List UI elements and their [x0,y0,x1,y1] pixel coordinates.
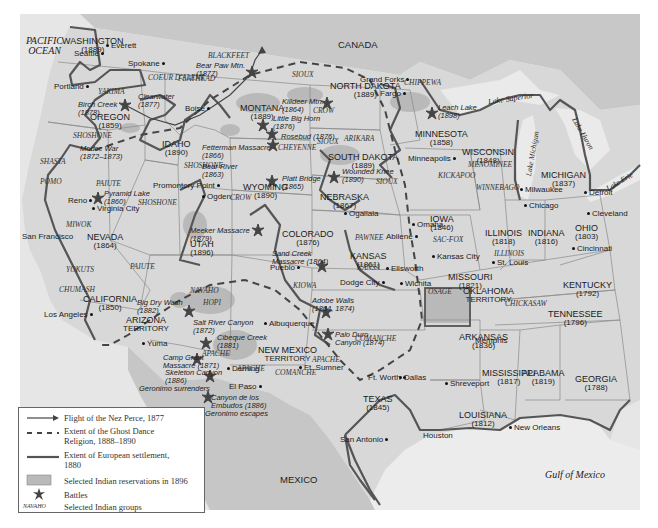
city-name: Detroit [589,188,613,197]
battle-year: (1865) [282,182,304,191]
city-name: Ellsworth [391,264,423,273]
battle-label: Clearwater(1877) [138,93,174,108]
city-label: Minneapolis [408,155,458,163]
city-dot-icon [227,367,230,370]
city-name: Yuma [147,339,167,348]
city-label: Spokane [128,60,167,68]
city-label: Wichita [398,280,431,288]
state-year: (1818) [485,238,522,246]
battle-year: (1877) [138,100,160,109]
battle-label: Modoc War(1872–1873) [80,145,123,160]
city-dot-icon [202,195,205,198]
gulf-of-mexico-label: Gulf of Mexico [545,470,605,480]
city-dot-icon [509,426,512,429]
battle-label: Bear Paw Mtn.(1877) [196,62,245,77]
state-year: (1890) [162,149,191,157]
city-name: St. Louis [497,258,528,267]
state-label: OHIO(1803) [575,224,598,241]
indian-group-label: CHIPPEWA [404,79,441,87]
city-dot-icon [259,385,262,388]
city-label: Omaha [410,221,443,229]
indian-group-label: SIOUX [292,71,314,79]
indian-group-label: MENOMINEE [468,161,512,169]
indian-group-label: ARIKARA [344,135,374,143]
city-name: Los Angeles [44,310,88,319]
indian-group-label: SAC-FOX [433,236,463,244]
battle-label: Palo DuroCanyon (1874) [335,331,385,346]
battle-year: (1890) [342,175,364,184]
city-label: Virginia City [90,205,140,213]
city-name: El Paso [229,382,257,391]
city-label: Yuma [140,340,167,348]
mexico-label: MEXICO [280,475,317,485]
city-label: Kansas City [430,253,480,261]
battle-name: Geronimo surrenders [139,384,210,393]
battle-label: Platt Bridge(1865) [282,175,321,190]
city-name: Reno [68,196,87,205]
city-name: San Antonio [340,435,383,444]
city-name: Milwaukee [525,185,563,194]
battle-year: (1872) [193,326,215,335]
city-label: San Antonio [340,436,390,444]
battle-label: Little Big Horn(1876) [273,115,320,130]
state-label: COLORADO(1876) [282,230,334,247]
battle-label: Geronimo escapes [205,410,268,418]
state-year: (1859) [90,122,130,130]
city-name: Portland [54,82,84,91]
city-dot-icon [106,44,109,47]
city-label: Milwaukee [518,186,563,194]
city-dot-icon [217,184,220,187]
city-label: Detroit [582,189,613,197]
indian-group-label: POMO [40,178,62,186]
city-dot-icon [572,247,575,250]
city-label: New Orleans [507,424,560,432]
canada-label: CANADA [338,40,378,50]
city-label: Seattle [74,50,106,58]
indian-group-label: YOKUTS [66,266,94,274]
battle-star-icon [23,488,63,500]
battle-year: (1878) [78,108,100,117]
legend-item-settlement: Extent of European settlement,1880 [19,450,204,472]
state-year: TERRITORY [123,325,169,333]
city-dot-icon [445,382,448,385]
city-label: Los Angeles [44,311,95,319]
state-label: NEVADA(1864) [87,233,123,250]
city-name: Memphis [475,336,507,345]
city-label: Abilene [386,233,420,241]
city-name: Ogallala [349,209,378,218]
legend-item-battles: Battles [19,488,204,500]
battle-year: (1872–1873) [80,152,123,161]
state-year: (1876) [282,239,334,247]
state-label: INDIANA(1816) [528,229,565,246]
city-label: Everett [104,42,136,50]
indian-group-label: APACHE [312,356,340,364]
indian-group-label: OSAGE [428,288,452,296]
city-label: Houston [423,432,453,440]
battle-label: Killdeer Mtn.(1864) [282,98,324,113]
state-year: (1792) [563,290,612,298]
state-label: TEXAS(1845) [363,395,393,412]
indian-group-label: WINNEBAGO [476,184,519,192]
city-name: Dodge City [340,278,380,287]
indian-group-label: NAVAHO [190,287,219,295]
city-name: Shreveport [450,379,489,388]
state-label: LOUISIANA(1812) [459,411,507,428]
state-year: (1812) [459,420,507,428]
city-name: Ogden [207,192,231,201]
city-dot-icon [207,107,210,110]
battle-year: (1864, 1874) [312,304,355,313]
city-name: Minneapolis [408,154,451,163]
battle-name: Rosebud (1876) [281,132,335,141]
pacific-ocean-label: PACIFICOCEAN [26,36,63,56]
indian-group-label: CHUMASH [59,286,95,294]
indian-group-label: PAWNEE [355,234,383,242]
indian-group-label: KANSA [357,264,380,272]
state-year: (1788) [575,384,617,392]
battle-year: (1882) [137,306,159,315]
state-label: KENTUCKY(1792) [563,281,612,298]
city-label: Cleveland [585,210,628,218]
state-label: ARIZONATERRITORY [123,316,169,333]
battle-label: Bear River(1863) [202,163,237,178]
city-label: El Paso [229,383,264,391]
state-label: ILLINOIS(1818) [485,229,522,246]
